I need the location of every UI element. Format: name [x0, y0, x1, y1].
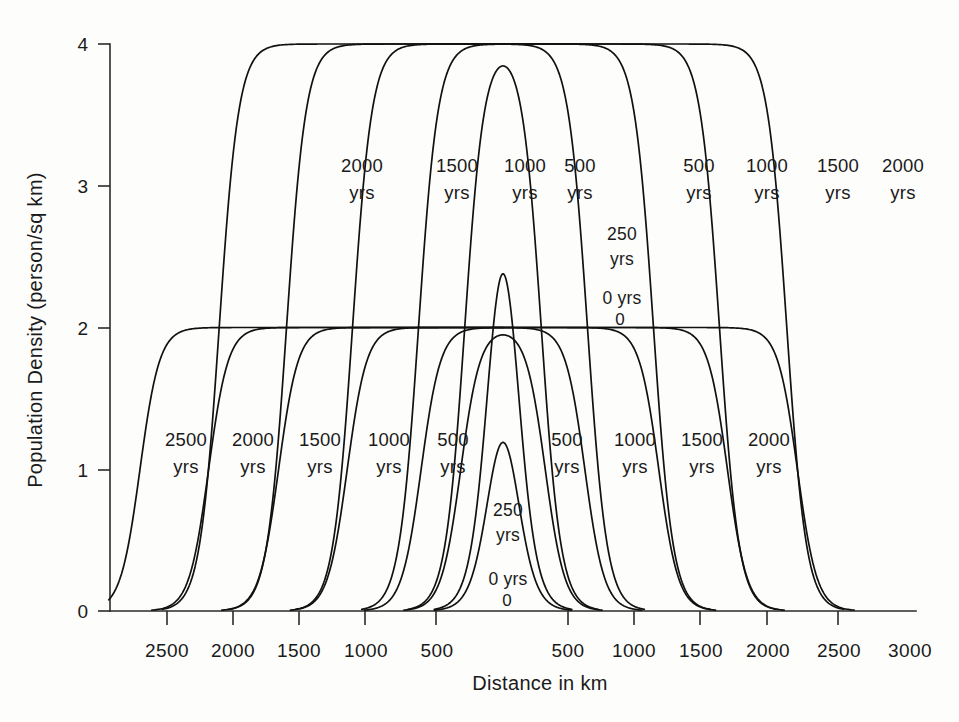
x-tick-labels: 2500 2000 1500 1000 500 500 1000 1500 20…	[145, 640, 932, 661]
lower-curve-labels: 2500 yrs 2000 yrs 1500 yrs 1000 yrs 500 …	[165, 429, 790, 610]
upper-label-left-500-unit: yrs	[567, 182, 592, 203]
lower-label-right-2000-unit: yrs	[756, 456, 781, 477]
lower-label-right-500-unit: yrs	[554, 456, 579, 477]
x-tick-label-left-500: 500	[421, 640, 454, 661]
upper-curve-labels: 2000 yrs 1500 yrs 1000 yrs 500 yrs 500 y…	[341, 155, 924, 329]
population-density-chart: 4 3 2 1 0 2500 2000 1500 1000 500 500 10…	[0, 0, 959, 722]
y-tick-labels: 4 3 2 1 0	[77, 34, 88, 622]
lower-label-right-2000-value: 2000	[748, 429, 790, 450]
upper-label-right-500-unit: yrs	[686, 182, 711, 203]
upper-label-right-1000-value: 1000	[746, 155, 788, 176]
lower-label-left-500-unit: yrs	[440, 456, 465, 477]
upper-label-left-500-value: 500	[564, 155, 595, 176]
lower-label-left-1000-unit: yrs	[376, 456, 401, 477]
lower-label-left-2500-unit: yrs	[173, 456, 198, 477]
y-tick-label-3: 3	[77, 176, 88, 197]
lower-label-right-1000-unit: yrs	[622, 456, 647, 477]
upper-label-right-500-value: 500	[683, 155, 714, 176]
x-tick-marks	[167, 611, 838, 625]
upper-label-right-1000-unit: yrs	[754, 182, 779, 203]
upper-label-right-2000-unit: yrs	[890, 182, 915, 203]
lower-label-right-500-value: 500	[551, 429, 582, 450]
x-tick-label-right-1500: 1500	[679, 640, 723, 661]
upper-label-right-2000-value: 2000	[882, 155, 924, 176]
y-tick-label-2: 2	[77, 318, 88, 339]
lower-label-left-2000-value: 2000	[232, 429, 274, 450]
lower-label-left-1500-value: 1500	[299, 429, 341, 450]
upper-label-left-2000-value: 2000	[341, 155, 383, 176]
upper-label-left-1500-value: 1500	[436, 155, 478, 176]
y-tick-marks	[98, 44, 110, 611]
x-tick-label-left-1500: 1500	[277, 640, 321, 661]
y-tick-label-0: 0	[77, 601, 88, 622]
x-tick-label-left-2000: 2000	[211, 640, 255, 661]
upper-label-0-mark: 0	[615, 310, 624, 329]
x-tick-label-left-1000: 1000	[344, 640, 388, 661]
lower-label-0-mark: 0	[502, 591, 511, 610]
upper-label-left-1000-unit: yrs	[512, 182, 537, 203]
x-axis-title: Distance in km	[472, 672, 607, 694]
lower-label-left-1500-unit: yrs	[307, 456, 332, 477]
upper-label-left-2000-unit: yrs	[349, 182, 374, 203]
x-tick-label-right-3000: 3000	[888, 640, 932, 661]
upper-label-left-1500-unit: yrs	[444, 182, 469, 203]
y-tick-label-1: 1	[77, 460, 88, 481]
upper-label-0yrs: 0 yrs	[603, 288, 642, 308]
wave-of-advance-curves	[109, 44, 854, 610]
upper-label-left-1000-value: 1000	[504, 155, 546, 176]
y-tick-label-4: 4	[77, 34, 88, 55]
x-tick-label-right-1000: 1000	[612, 640, 656, 661]
y-axis-title: Population Density (person/sq km)	[24, 172, 46, 488]
lower-label-left-2500-value: 2500	[165, 429, 207, 450]
x-tick-label-right-2500: 2500	[817, 640, 861, 661]
lower-label-0yrs: 0 yrs	[489, 569, 528, 589]
lower-label-250-unit: yrs	[496, 525, 520, 545]
lower-label-left-2000-unit: yrs	[240, 456, 265, 477]
upper-label-250-value: 250	[607, 224, 637, 244]
curve-500-yrs-lower-	[364, 328, 641, 611]
lower-label-250-value: 250	[493, 500, 523, 520]
upper-label-250-unit: yrs	[610, 249, 634, 269]
upper-label-right-1500-value: 1500	[817, 155, 859, 176]
lower-label-left-1000-value: 1000	[368, 429, 410, 450]
lower-label-right-1000-value: 1000	[614, 429, 656, 450]
x-tick-label-left-2500: 2500	[145, 640, 189, 661]
chart-figure: 4 3 2 1 0 2500 2000 1500 1000 500 500 10…	[0, 0, 959, 722]
lower-label-left-500-value: 500	[437, 429, 468, 450]
lower-label-right-1500-unit: yrs	[689, 456, 714, 477]
x-tick-label-right-500: 500	[552, 640, 585, 661]
curve-1000-yrs-lower-	[290, 328, 715, 611]
x-tick-label-right-2000: 2000	[746, 640, 790, 661]
lower-label-right-1500-value: 1500	[681, 429, 723, 450]
upper-label-right-1500-unit: yrs	[825, 182, 850, 203]
